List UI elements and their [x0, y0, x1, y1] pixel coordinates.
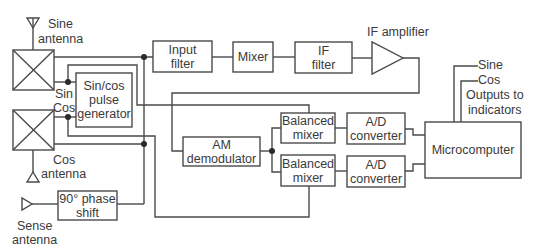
sin-label: Sin: [55, 87, 73, 101]
if-amplifier-icon: [372, 42, 403, 74]
if-amplifier-label: IF amplifier: [358, 25, 438, 39]
cos-loop-antenna-icon: [13, 110, 54, 150]
block-diagram: Sin/cos pulse generator Input filter Mix…: [0, 0, 536, 248]
ad-converter-top-label: A/D converter: [347, 113, 405, 144]
output-sine-label: Sine: [478, 58, 503, 72]
microcomputer-label: Microcomputer: [425, 122, 521, 178]
outputs-label-2: indicators: [468, 103, 522, 117]
cos-antenna-label-2: antenna: [41, 167, 86, 181]
ad-converter-bottom-label: A/D converter: [347, 156, 405, 187]
phase-shift-label: 90° phase shift: [58, 191, 117, 220]
cos-label: Cos: [53, 101, 75, 115]
sense-antenna-label-1: Sense: [17, 219, 52, 233]
balanced-mixer-bottom-label: Balanced mixer: [281, 155, 335, 186]
pulse-generator-label: Sin/cos pulse generator: [76, 73, 132, 127]
sense-antenna-label-2: antenna: [12, 233, 57, 247]
sine-antenna-label-1: Sine: [48, 17, 73, 31]
sine-loop-antenna-icon: [13, 50, 54, 90]
cos-antenna-icon: [27, 150, 39, 182]
outputs-label-1: Outputs to: [466, 88, 524, 102]
sense-antenna-icon: [22, 198, 58, 210]
cos-antenna-label-1: Cos: [53, 153, 75, 167]
output-cos-label: Cos: [478, 73, 500, 87]
input-filter-label: Input filter: [153, 41, 212, 72]
sine-antenna-label-2: antenna: [38, 32, 83, 46]
mixer-label: Mixer: [233, 42, 273, 72]
am-demodulator-label: AM demodulator: [183, 137, 260, 166]
if-filter-label: IF filter: [295, 42, 352, 73]
balanced-mixer-top-label: Balanced mixer: [281, 113, 335, 143]
